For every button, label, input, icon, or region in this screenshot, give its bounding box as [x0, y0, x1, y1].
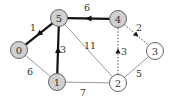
edge-weight-label: 5	[136, 68, 142, 79]
node-label: 2	[115, 78, 121, 89]
arrowhead-icon	[115, 49, 120, 54]
node-label: 5	[56, 13, 62, 24]
edge-weight-label: 1	[30, 22, 36, 33]
edge-line	[65, 82, 109, 83]
node-label: 1	[54, 77, 60, 88]
edge-weight-label: 3	[60, 44, 66, 55]
node-2: 2	[110, 75, 127, 92]
edge-weight-label: 6	[84, 2, 90, 13]
node-5: 5	[51, 10, 68, 27]
arrowhead-icon	[86, 16, 92, 22]
edge-weight-label: 11	[84, 40, 96, 51]
edge-1-2	[65, 82, 109, 83]
node-1: 1	[49, 74, 66, 91]
node-3: 3	[147, 43, 164, 60]
edge-weight-label: 7	[80, 87, 86, 97]
node-label: 3	[152, 46, 158, 57]
node-label: 0	[16, 45, 22, 56]
node-0: 0	[11, 42, 28, 59]
node-label: 4	[115, 14, 121, 25]
graph-diagram: 1632311675 012345	[0, 0, 170, 97]
node-4: 4	[110, 11, 127, 28]
edge-weight-label: 2	[136, 22, 142, 33]
edge-2-4	[115, 28, 120, 75]
edge-4-5	[67, 16, 109, 22]
edge-weight-label: 6	[27, 66, 33, 77]
edge-weight-label: 3	[121, 46, 127, 57]
